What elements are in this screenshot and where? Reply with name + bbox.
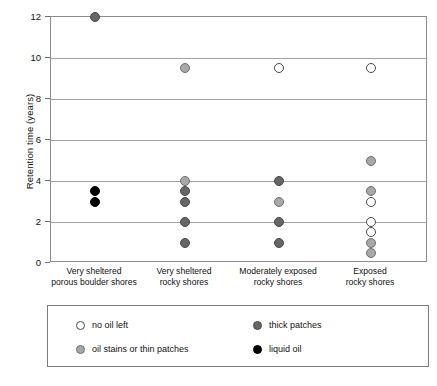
x-axis-label-1-line-1: rocky shores xyxy=(157,277,212,288)
legend-item-white[interactable]: no oil left xyxy=(76,320,128,330)
x-axis-label-1: Very shelteredrocky shores xyxy=(157,266,212,288)
x-axis-label-2-line-0: Moderately exposed xyxy=(239,266,316,277)
legend: no oil leftthick patchesoil stains or th… xyxy=(47,305,429,367)
legend-label: thick patches xyxy=(269,320,322,330)
y-tick-label-0: 0 xyxy=(36,257,41,268)
data-point xyxy=(274,238,284,248)
data-point xyxy=(366,227,376,237)
x-axis-label-0-line-0: Very sheltered xyxy=(51,266,137,277)
data-point xyxy=(366,238,376,248)
data-point xyxy=(180,238,190,248)
data-point xyxy=(180,176,190,186)
y-axis-ticks: 024681012 xyxy=(0,0,50,262)
data-point xyxy=(366,248,376,258)
data-point xyxy=(274,197,284,207)
data-point xyxy=(90,186,100,196)
legend-marker-dark-icon xyxy=(253,321,262,330)
data-point xyxy=(366,156,376,166)
x-axis-label-3-line-0: Exposed xyxy=(346,266,395,277)
y-tick-label-4: 4 xyxy=(36,175,41,186)
data-point xyxy=(90,12,100,22)
retention-time-scatter-figure: Retention time (years) 024681012 Very sh… xyxy=(0,0,437,386)
x-axis-label-2-line-1: rocky shores xyxy=(239,277,316,288)
data-point xyxy=(180,197,190,207)
data-point xyxy=(274,217,284,227)
x-axis-label-1-line-0: Very sheltered xyxy=(157,266,212,277)
gridline-y-4 xyxy=(51,181,426,182)
legend-label: no oil left xyxy=(92,320,128,330)
legend-item-black[interactable]: liquid oil xyxy=(253,344,302,354)
legend-marker-light-icon xyxy=(76,345,85,354)
data-point xyxy=(180,63,190,73)
y-tick-label-10: 10 xyxy=(30,52,41,63)
data-point xyxy=(366,186,376,196)
data-point xyxy=(90,197,100,207)
gridline-y-8 xyxy=(51,99,426,100)
y-tick-mark-0 xyxy=(45,262,50,263)
data-point xyxy=(180,217,190,227)
x-axis-label-0: Very shelteredporous boulder shores xyxy=(51,266,137,288)
y-tick-label-12: 12 xyxy=(30,11,41,22)
data-point xyxy=(274,176,284,186)
legend-label: liquid oil xyxy=(269,344,302,354)
plot-area xyxy=(50,16,427,262)
data-point xyxy=(274,63,284,73)
gridline-y-10 xyxy=(51,58,426,59)
y-tick-label-2: 2 xyxy=(36,216,41,227)
y-tick-label-6: 6 xyxy=(36,134,41,145)
x-axis-labels: Very shelteredporous boulder shoresVery … xyxy=(50,266,427,296)
x-axis-label-3: Exposedrocky shores xyxy=(346,266,395,288)
legend-marker-black-icon xyxy=(253,345,262,354)
data-point xyxy=(366,217,376,227)
data-point xyxy=(366,63,376,73)
legend-item-light[interactable]: oil stains or thin patches xyxy=(76,344,189,354)
legend-marker-white-icon xyxy=(76,321,85,330)
y-tick-label-8: 8 xyxy=(36,93,41,104)
x-axis-label-0-line-1: porous boulder shores xyxy=(51,277,137,288)
x-axis-label-2: Moderately exposedrocky shores xyxy=(239,266,316,288)
data-point xyxy=(180,186,190,196)
gridline-y-6 xyxy=(51,140,426,141)
legend-label: oil stains or thin patches xyxy=(92,344,189,354)
data-point xyxy=(366,197,376,207)
x-axis-label-3-line-1: rocky shores xyxy=(346,277,395,288)
legend-item-dark[interactable]: thick patches xyxy=(253,320,322,330)
